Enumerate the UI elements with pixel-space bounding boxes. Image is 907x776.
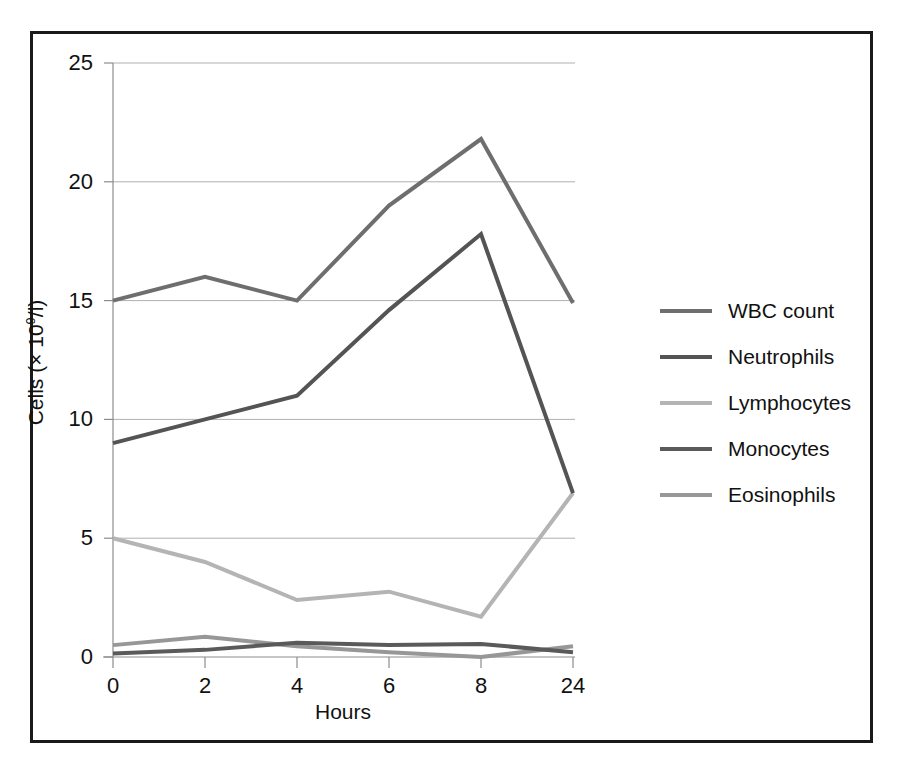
x-tick-label: 24 bbox=[543, 675, 603, 697]
x-axis-title: Hours bbox=[113, 700, 573, 724]
legend-label: WBC count bbox=[728, 299, 834, 323]
legend-line-swatch-icon bbox=[660, 401, 712, 405]
x-tick-label: 2 bbox=[175, 675, 235, 697]
series-line-neutrophils bbox=[113, 234, 573, 493]
y-axis-title: Cells (× 109/l) bbox=[23, 233, 48, 493]
y-tick-label: 20 bbox=[37, 171, 93, 193]
x-tick-label: 4 bbox=[267, 675, 327, 697]
legend-line-swatch-icon bbox=[660, 447, 712, 451]
blood-cell-count-line-chart: Cells (× 109/l) Hours 25201510500246824 … bbox=[0, 0, 907, 776]
legend-line-swatch-icon bbox=[660, 493, 712, 497]
legend-item[interactable]: WBC count bbox=[660, 288, 851, 334]
legend-item[interactable]: Monocytes bbox=[660, 426, 851, 472]
legend-line-swatch-icon bbox=[660, 309, 712, 313]
y-tick-label: 10 bbox=[37, 408, 93, 430]
y-tick-label: 15 bbox=[37, 290, 93, 312]
chart-legend: WBC countNeutrophilsLymphocytesMonocytes… bbox=[660, 288, 851, 518]
legend-label: Monocytes bbox=[728, 437, 830, 461]
legend-item[interactable]: Eosinophils bbox=[660, 472, 851, 518]
x-tick-label: 6 bbox=[359, 675, 419, 697]
legend-item[interactable]: Neutrophils bbox=[660, 334, 851, 380]
legend-item[interactable]: Lymphocytes bbox=[660, 380, 851, 426]
y-axis-title-exponent: 9 bbox=[23, 317, 38, 324]
y-tick-label: 25 bbox=[37, 52, 93, 74]
legend-label: Lymphocytes bbox=[728, 391, 851, 415]
y-tick-label: 5 bbox=[37, 527, 93, 549]
series-line-lymphocytes bbox=[113, 493, 573, 617]
series-line-wbc-count bbox=[113, 139, 573, 303]
legend-label: Eosinophils bbox=[728, 483, 835, 507]
legend-line-swatch-icon bbox=[660, 355, 712, 359]
y-tick-label: 0 bbox=[37, 646, 93, 668]
x-tick-label: 8 bbox=[451, 675, 511, 697]
legend-label: Neutrophils bbox=[728, 345, 834, 369]
x-tick-label: 0 bbox=[83, 675, 143, 697]
